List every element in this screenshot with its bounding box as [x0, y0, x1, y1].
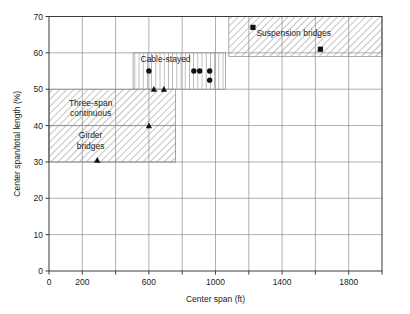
bridge-span-chart: 0200600100014001800010203040506070Center…	[0, 0, 410, 314]
y-axis-title: Center span/total length (%)	[12, 91, 22, 197]
region-label-girder-bridges: Girderbridges	[77, 130, 105, 151]
region-girder-bridges	[49, 126, 176, 162]
data-point-marker	[191, 68, 196, 73]
y-tick-label: 40	[34, 121, 44, 131]
data-point-marker	[250, 25, 255, 30]
region-label-suspension-bridges: Suspension bridges	[256, 28, 331, 38]
x-tick-label: 1400	[273, 277, 292, 287]
x-tick-label: 1000	[206, 277, 225, 287]
x-axis-title: Center span (ft)	[186, 294, 245, 304]
region-label-three-span-continuous: Three-spancontinuous	[69, 98, 113, 119]
y-tick-label: 10	[34, 230, 44, 240]
y-tick-label: 20	[34, 193, 44, 203]
y-tick-label: 70	[34, 12, 44, 22]
x-tick-label: 600	[142, 277, 156, 287]
x-tick-label: 200	[75, 277, 89, 287]
y-tick-label: 60	[34, 48, 44, 58]
data-point-marker	[197, 68, 202, 73]
data-point-marker	[318, 47, 323, 52]
x-tick-label: 0	[47, 277, 52, 287]
data-point-marker	[207, 68, 212, 73]
y-tick-label: 0	[38, 266, 43, 276]
data-point-marker	[146, 68, 151, 73]
data-point-marker	[207, 77, 212, 82]
y-tick-label: 50	[34, 84, 44, 94]
region-label-cable-stayed: Cable-stayed	[141, 54, 191, 64]
chart-canvas: 0200600100014001800010203040506070Center…	[0, 0, 410, 314]
x-tick-label: 1800	[339, 277, 358, 287]
y-tick-label: 30	[34, 157, 44, 167]
